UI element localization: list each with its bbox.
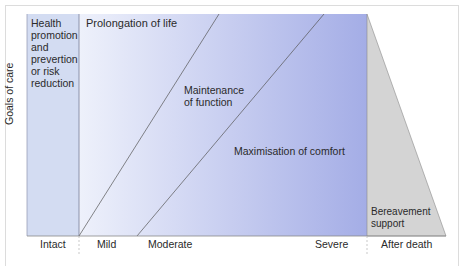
maximisation-label: Maximisation of comfort (234, 145, 345, 157)
bereavement-triangle (367, 14, 446, 236)
x-label-severe: Severe (315, 238, 348, 250)
x-label-intact: Intact (40, 238, 66, 250)
bereavement-label: Bereavement support (371, 206, 430, 230)
prolongation-label: Prolongation of life (86, 17, 177, 29)
x-label-moderate: Moderate (148, 238, 192, 250)
maintenance-label: Maintenance of function (184, 84, 244, 108)
x-label-mild: Mild (97, 238, 116, 250)
x-label-after-death: After death (381, 238, 432, 250)
health-promotion-label: Health promotion and prevertion or risk … (31, 17, 78, 89)
y-axis-label: Goals of care (3, 63, 15, 125)
care-region (79, 14, 367, 236)
